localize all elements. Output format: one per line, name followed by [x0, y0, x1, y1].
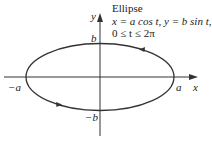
- y-axis-arrow-icon: [97, 13, 103, 22]
- x-axis-arrow-icon: [189, 74, 198, 80]
- parametric-equation: x = a cos t, y = b sin t,: [112, 16, 211, 27]
- parameter-range: 0 ≤ t ≤ 2π: [112, 28, 155, 39]
- point-neg-b-label: −b: [85, 112, 98, 123]
- x-axis-label: x: [193, 82, 198, 93]
- point-b-label: b: [91, 33, 97, 44]
- point-neg-a-label: −a: [8, 82, 21, 93]
- direction-arrow-upper-icon: [139, 47, 145, 52]
- point-a-label: a: [176, 82, 182, 93]
- figure-title: Ellipse: [112, 3, 143, 14]
- y-axis-label: y: [91, 11, 96, 22]
